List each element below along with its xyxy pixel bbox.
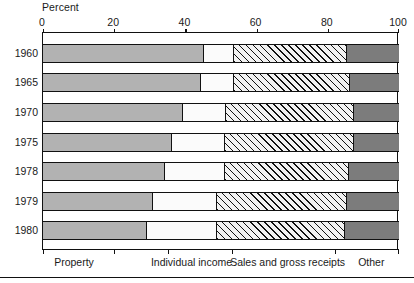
x-tick-label-40: 40 [179, 16, 191, 28]
legend-divider-tick [232, 249, 233, 254]
x-tick-mark-100 [398, 29, 399, 33]
bar-segment-1978-property [43, 162, 165, 181]
bar-segment-1979-other [347, 192, 399, 211]
bar-segment-1975-sales-and-gross-receipts [225, 133, 354, 152]
bar-segment-1970-property [43, 103, 183, 122]
bar-segment-1978-individual-income [165, 162, 225, 181]
x-axis-title: Percent [42, 1, 79, 13]
legend-divider-tick [335, 249, 336, 254]
plot-area [42, 32, 398, 250]
x-tick-label-80: 80 [321, 16, 333, 28]
y-axis-label-1960: 1960 [0, 47, 38, 59]
bar-segment-1980-individual-income [147, 221, 217, 240]
bar-segment-1960-property [43, 44, 204, 63]
bar-segment-1965-other [350, 73, 399, 92]
bar-segment-1965-individual-income [201, 73, 234, 92]
bar-segment-1965-property [43, 73, 201, 92]
x-tick-label-20: 20 [107, 16, 119, 28]
bar-segment-1978-other [349, 162, 399, 181]
x-tick-mark-80 [328, 29, 329, 33]
y-axis-label-1975: 1975 [0, 136, 38, 148]
x-tick-label-0: 0 [39, 16, 45, 28]
y-axis-label-1970: 1970 [0, 106, 38, 118]
y-axis-label-1978: 1978 [0, 165, 38, 177]
bar-segment-1975-property [43, 133, 172, 152]
bar-segment-1965-sales-and-gross-receipts [234, 73, 350, 92]
x-tick-label-100: 100 [389, 16, 407, 28]
bar-segment-1980-property [43, 221, 147, 240]
bar-row-1978 [43, 162, 397, 181]
chart-legend: PropertyIndividual incomeSales and gross… [42, 256, 398, 272]
bar-segment-1970-other [354, 103, 399, 122]
bar-segment-1978-sales-and-gross-receipts [225, 162, 349, 181]
y-axis-label-1980: 1980 [0, 224, 38, 236]
legend-item-property: Property [54, 256, 94, 268]
x-tick-mark-20 [114, 29, 115, 33]
bar-segment-1970-individual-income [183, 103, 226, 122]
bar-segment-1980-other [345, 221, 399, 240]
x-tick-label-60: 60 [250, 16, 262, 28]
x-tick-mark-0 [43, 29, 44, 33]
bar-row-1975 [43, 133, 397, 152]
bar-row-1980 [43, 221, 397, 240]
bar-segment-1979-individual-income [153, 192, 217, 211]
bar-segment-1979-sales-and-gross-receipts [217, 192, 347, 211]
x-tick-mark-40 [185, 29, 186, 33]
y-axis-label-1965: 1965 [0, 76, 38, 88]
bar-row-1970 [43, 103, 397, 122]
legend-item-individual-income: Individual income [151, 256, 232, 268]
legend-divider-tick [398, 249, 399, 254]
bar-row-1965 [43, 73, 397, 92]
bar-segment-1960-sales-and-gross-receipts [234, 44, 347, 63]
bar-segment-1970-sales-and-gross-receipts [226, 103, 354, 122]
bar-segment-1979-property [43, 192, 153, 211]
bar-segment-1980-sales-and-gross-receipts [217, 221, 345, 240]
legend-item-sales-and-gross-receipts: Sales and gross receipts [230, 256, 345, 268]
x-tick-mark-60 [257, 29, 258, 33]
legend-divider-tick [168, 249, 169, 254]
y-axis-label-1979: 1979 [0, 195, 38, 207]
legend-item-other: Other [358, 256, 384, 268]
bar-segment-1960-other [347, 44, 399, 63]
legend-divider-tick [114, 249, 115, 254]
bar-segment-1960-individual-income [204, 44, 234, 63]
bar-row-1979 [43, 192, 397, 211]
bar-segment-1975-individual-income [172, 133, 225, 152]
legend-divider-tick [43, 249, 44, 254]
x-axis-tick-labels: 020406080100 [0, 16, 414, 30]
bar-row-1960 [43, 44, 397, 63]
tax-revenue-stacked-bar-chart: Percent 020406080100 PropertyIndividual … [0, 0, 414, 283]
bar-segment-1975-other [354, 133, 399, 152]
footer-rule [0, 277, 414, 278]
